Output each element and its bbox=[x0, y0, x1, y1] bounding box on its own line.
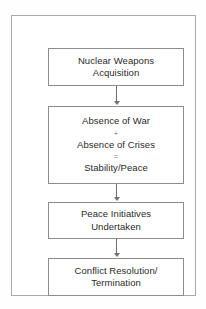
diagram-outer-frame: Nuclear Weapons Acquisition Absence of W… bbox=[11, 15, 196, 296]
flow-node-peace-initiatives-undertaken: Peace Initiatives Undertaken bbox=[48, 202, 184, 239]
node-text-line: Stability/Peace bbox=[84, 162, 148, 175]
node-text-line: Acquisition bbox=[93, 67, 140, 80]
node-text-line: Undertaken bbox=[91, 221, 141, 234]
flow-node-stability-peace: Absence of War + Absence of Crises = Sta… bbox=[48, 106, 184, 184]
arrow-down-icon bbox=[116, 184, 117, 200]
arrow-down-icon bbox=[116, 86, 117, 104]
plus-operator-icon: + bbox=[114, 128, 118, 139]
flow-node-nuclear-weapons-acquisition: Nuclear Weapons Acquisition bbox=[48, 48, 184, 86]
node-text-line: Termination bbox=[91, 277, 141, 290]
node-text-line: Absence of Crises bbox=[77, 139, 155, 152]
node-text-line: Absence of War bbox=[82, 115, 150, 128]
arrow-down-icon bbox=[116, 239, 117, 256]
node-text-line: Peace Initiatives bbox=[81, 208, 151, 221]
node-text-line: Nuclear Weapons bbox=[78, 55, 154, 68]
equals-operator-icon: = bbox=[114, 151, 118, 162]
flow-node-conflict-resolution-termination: Conflict Resolution/ Termination bbox=[48, 258, 184, 296]
node-text-line: Conflict Resolution/ bbox=[75, 265, 158, 278]
diagram-canvas: Nuclear Weapons Acquisition Absence of W… bbox=[0, 0, 206, 309]
